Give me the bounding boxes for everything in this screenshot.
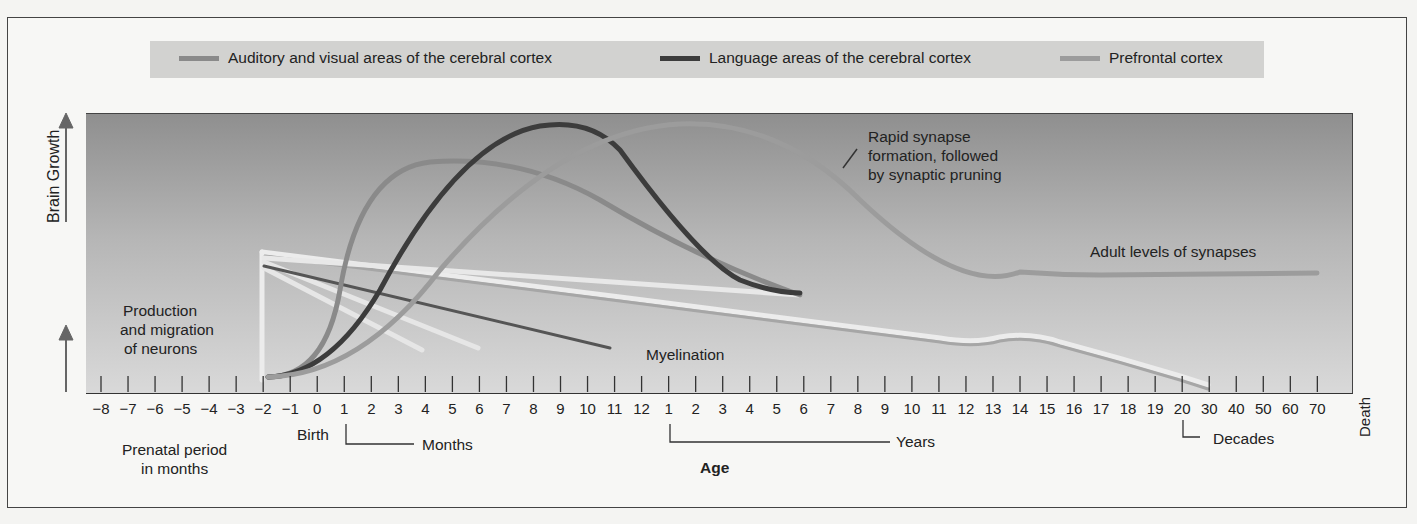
x-axis-label: Age <box>700 458 729 477</box>
x-tick-label: −6 <box>140 400 170 417</box>
x-tick-label: −7 <box>113 400 143 417</box>
x-tick-label: 11 <box>924 400 954 417</box>
prenatal-line: Prenatal period <box>122 440 227 459</box>
x-tick-label: −5 <box>167 400 197 417</box>
x-tick-label: 17 <box>1086 400 1116 417</box>
death-label: Death <box>1356 397 1373 437</box>
x-tick-label: 7 <box>491 400 521 417</box>
x-tick-label: 40 <box>1221 400 1251 417</box>
x-tick-label: 19 <box>1140 400 1170 417</box>
myelination-annotation: Myelination <box>646 345 724 364</box>
x-tick-label: 9 <box>870 400 900 417</box>
y-axis-label: Brain Growth <box>45 130 63 223</box>
x-tick-label: 9 <box>546 400 576 417</box>
x-axis-brackets <box>346 420 1200 444</box>
x-tick-label: 10 <box>897 400 927 417</box>
x-tick-label: 70 <box>1302 400 1332 417</box>
x-tick-label: 3 <box>383 400 413 417</box>
prenatal-line: in months <box>122 459 227 478</box>
x-tick-label: 50 <box>1248 400 1278 417</box>
x-tick-label: 3 <box>708 400 738 417</box>
x-tick-label: 15 <box>1032 400 1062 417</box>
x-tick-label: 13 <box>978 400 1008 417</box>
x-tick-label: −2 <box>248 400 278 417</box>
x-tick-label: 1 <box>654 400 684 417</box>
x-tick-label: −4 <box>194 400 224 417</box>
decades-label: Decades <box>1213 429 1274 448</box>
x-tick-label: 5 <box>437 400 467 417</box>
x-tick-label: 12 <box>627 400 657 417</box>
x-tick-label: 18 <box>1113 400 1143 417</box>
annotation-line: formation, followed <box>868 146 1002 165</box>
x-tick-label: 7 <box>816 400 846 417</box>
annotation-line: Rapid synapse <box>868 127 1002 146</box>
annotation-line: of neurons <box>120 339 214 358</box>
x-tick-label: 6 <box>464 400 494 417</box>
months-label: Months <box>422 435 473 454</box>
x-tick-label: 8 <box>843 400 873 417</box>
prenatal-label: Prenatal period in months <box>122 440 227 478</box>
x-tick-label: 2 <box>356 400 386 417</box>
x-tick-label: 11 <box>600 400 630 417</box>
x-tick-label: 4 <box>735 400 765 417</box>
x-tick-label: 0 <box>302 400 332 417</box>
x-tick-label: 30 <box>1194 400 1224 417</box>
x-tick-label: 2 <box>681 400 711 417</box>
years-label: Years <box>896 432 935 451</box>
x-tick-label: −1 <box>275 400 305 417</box>
x-tick-label: 4 <box>410 400 440 417</box>
adult-synapses-annotation: Adult levels of synapses <box>1090 242 1256 261</box>
x-tick-label: 14 <box>1005 400 1035 417</box>
x-tick-label: 1 <box>329 400 359 417</box>
annotation-line: and migration <box>120 320 214 339</box>
annotation-line: by synaptic pruning <box>868 165 1002 184</box>
x-tick-label: −3 <box>221 400 251 417</box>
x-tick-label: 12 <box>951 400 981 417</box>
x-tick-label: −8 <box>86 400 116 417</box>
x-tick-label: 10 <box>573 400 603 417</box>
synapse-pointer <box>843 149 857 168</box>
x-tick-label: 16 <box>1059 400 1089 417</box>
birth-label: Birth <box>297 425 329 444</box>
neurons-annotation: Production and migration of neurons <box>120 301 214 358</box>
x-tick-label: 20 <box>1167 400 1197 417</box>
x-tick-label: 8 <box>518 400 548 417</box>
synapse-annotation: Rapid synapse formation, followed by syn… <box>868 127 1002 184</box>
annotation-line: Production <box>120 301 214 320</box>
x-tick-label: 60 <box>1275 400 1305 417</box>
x-tick-label: 6 <box>789 400 819 417</box>
x-tick-label: 5 <box>762 400 792 417</box>
